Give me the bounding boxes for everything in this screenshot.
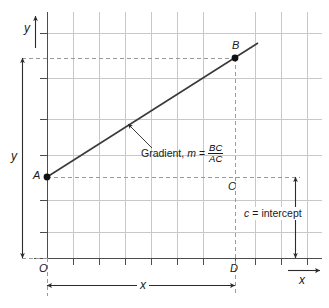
point-label-C: C — [228, 181, 236, 192]
gradient-callout-text: Gradient, — [141, 148, 184, 159]
y-measurement-label: y — [11, 150, 17, 162]
gradient-variable-m: m — [187, 148, 196, 159]
y-axis-ticks — [40, 34, 47, 233]
line-graph-figure: y x y x O A B C D Gradient, m = BC AC c … — [0, 0, 329, 308]
point-label-B: B — [232, 40, 239, 51]
grid-vertical-lines — [74, 12, 308, 258]
point-marker-B — [232, 55, 239, 62]
intercept-callout: c = intercept — [242, 207, 304, 220]
point-marker-A — [44, 174, 51, 181]
intercept-word: intercept — [261, 208, 301, 219]
intercept-equals-sign: = — [252, 208, 258, 219]
point-label-D: D — [230, 263, 238, 274]
gradient-equals-sign: = — [199, 148, 205, 159]
y-axis-direction-label: y — [24, 22, 30, 34]
x-measurement-label: x — [137, 279, 149, 291]
origin-label: O — [39, 263, 48, 274]
gradient-fraction: BC AC — [208, 143, 223, 164]
x-axis-direction-label: x — [299, 274, 305, 286]
intercept-variable-c: c — [244, 208, 249, 219]
point-label-A: A — [33, 170, 40, 181]
grid-horizontal-lines — [47, 34, 322, 233]
construction-dashed-lines — [22, 58, 300, 296]
gradient-callout: Gradient, m = BC AC — [141, 143, 223, 164]
gradient-fraction-denominator: AC — [208, 154, 223, 164]
